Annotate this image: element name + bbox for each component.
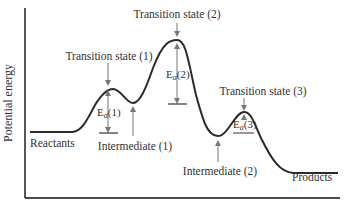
ts1-arrowhead bbox=[105, 80, 111, 86]
y-axis-label: Potential energy bbox=[1, 64, 15, 142]
ts2-arrowhead bbox=[174, 31, 180, 37]
ea1-arrowhead-down bbox=[105, 127, 111, 133]
int1-arrowhead bbox=[130, 106, 136, 112]
ea2-arrowhead-up bbox=[174, 43, 180, 49]
ts3-arrowhead bbox=[241, 105, 247, 111]
energy-diagram: Potential energy Transition state (1) Ea… bbox=[0, 0, 346, 204]
products-label: Products bbox=[292, 171, 333, 183]
ea3-label: Ea(3) bbox=[233, 118, 257, 132]
int2-label: Intermediate (2) bbox=[183, 165, 258, 178]
reactants-label: Reactants bbox=[30, 137, 75, 149]
ts1-label: Transition state (1) bbox=[65, 50, 152, 63]
ea1-label: Ea(1) bbox=[97, 106, 121, 120]
ts3-label: Transition state (3) bbox=[219, 85, 306, 98]
ts2-label: Transition state (2) bbox=[133, 8, 220, 21]
ea2-label: Ea(2) bbox=[166, 68, 190, 82]
ea2-arrowhead-down bbox=[174, 98, 180, 104]
int1-label: Intermediate (1) bbox=[98, 140, 173, 153]
int2-arrowhead bbox=[215, 140, 221, 146]
